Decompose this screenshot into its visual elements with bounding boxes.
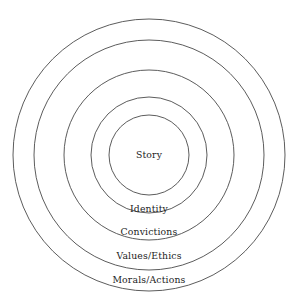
ring-label-morals-actions: Morals/Actions [112, 274, 185, 285]
ring-label-values-ethics: Values/Ethics [115, 250, 181, 261]
ring-label-story: Story [136, 149, 163, 160]
ring-label-identity: Identity [130, 203, 169, 214]
concentric-circles-diagram: Story Identity Convictions Values/Ethics… [0, 0, 298, 307]
ring-label-convictions: Convictions [121, 226, 178, 237]
diagram-canvas: Story Identity Convictions Values/Ethics… [0, 0, 298, 307]
